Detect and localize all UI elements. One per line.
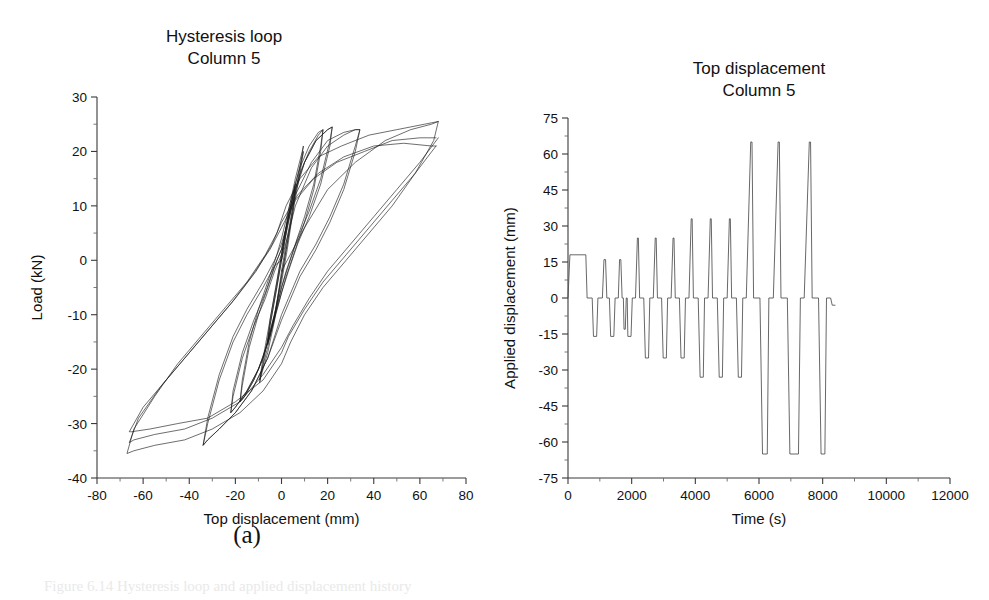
y-tick-label: 30	[72, 90, 87, 105]
axes-group: -75-60-45-30-150153045607502000400060008…	[501, 111, 969, 527]
y-tick-label: -75	[538, 471, 558, 486]
panel-a-caption: (a)	[207, 521, 287, 549]
x-tick-label: 60	[412, 488, 427, 503]
figure-caption: Figure 6.14 Hysteresis loop and applied …	[44, 578, 744, 595]
x-tick-label: -40	[179, 488, 199, 503]
y-tick-label: -20	[67, 362, 87, 377]
data-group	[568, 142, 835, 454]
series-applied-displacement-history	[568, 142, 835, 454]
y-tick-label: 0	[79, 253, 87, 268]
chart-panel-b: Top displacementColumn 5 -75-60-45-30-15…	[489, 0, 989, 600]
x-tick-label: -60	[133, 488, 153, 503]
series-cycle-6c-xlarge-degraded	[129, 143, 436, 431]
chart-b-plot: -75-60-45-30-150153045607502000400060008…	[489, 0, 989, 600]
figure-root: Hysteresis loopColumn 5 -40-30-20-100102…	[0, 0, 989, 600]
x-tick-label: -80	[87, 488, 107, 503]
y-tick-label: 45	[543, 183, 558, 198]
y-tick-label: -30	[67, 417, 87, 432]
y-tick-label: -10	[67, 308, 87, 323]
y-axis-title: Applied displacement (mm)	[501, 207, 518, 389]
x-tick-label: 4000	[680, 488, 710, 503]
series-cycle-6-xlarge	[127, 121, 438, 453]
y-tick-label: 10	[72, 199, 87, 214]
y-tick-label: 0	[550, 291, 558, 306]
y-tick-label: -40	[67, 471, 87, 486]
x-tick-label: 6000	[744, 488, 774, 503]
y-tick-label: 60	[543, 147, 558, 162]
y-tick-label: 75	[543, 111, 558, 126]
x-tick-label: -20	[226, 488, 246, 503]
y-tick-label: 20	[72, 144, 87, 159]
y-tick-label: -60	[538, 435, 558, 450]
x-tick-label: 2000	[617, 488, 647, 503]
chart-a-plot: -40-30-20-100102030-80-60-40-20020406080…	[0, 0, 500, 600]
y-tick-label: -15	[538, 327, 558, 342]
x-tick-label: 0	[564, 488, 572, 503]
series-cycle-6b-xlarge-return	[129, 138, 438, 443]
chart-panel-a: Hysteresis loopColumn 5 -40-30-20-100102…	[0, 0, 500, 600]
x-tick-label: 10000	[868, 488, 906, 503]
y-tick-label: -45	[538, 399, 558, 414]
x-tick-label: 8000	[808, 488, 838, 503]
y-tick-label: 30	[543, 219, 558, 234]
x-tick-label: 20	[320, 488, 335, 503]
x-tick-label: 0	[278, 488, 286, 503]
data-group	[127, 121, 438, 453]
y-axis-title: Load (kN)	[28, 255, 45, 321]
x-tick-label: 40	[366, 488, 381, 503]
x-axis-title: Time (s)	[732, 510, 786, 527]
y-tick-label: -30	[538, 363, 558, 378]
x-tick-label: 12000	[931, 488, 969, 503]
x-tick-label: 80	[458, 488, 473, 503]
y-tick-label: 15	[543, 255, 558, 270]
